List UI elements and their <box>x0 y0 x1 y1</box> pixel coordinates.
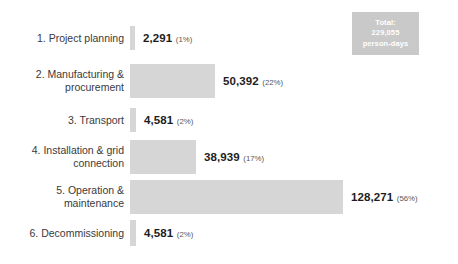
value-group: 128,271 (56%) <box>351 191 418 203</box>
value-number: 50,392 <box>223 75 259 87</box>
value-percent: (2%) <box>177 117 193 126</box>
category-label: 5. Operation & maintenance <box>0 184 130 210</box>
chart-row: 6. Decommissioning 4,581 (2%) <box>0 219 458 247</box>
category-label: 3. Transport <box>0 114 130 127</box>
bar <box>130 108 136 132</box>
value-group: 2,291 (1%) <box>143 32 192 44</box>
chart-row: 5. Operation & maintenance 128,271 (56%) <box>0 180 458 214</box>
value-group: 38,939 (17%) <box>204 151 264 163</box>
bar-zone: 128,271 (56%) <box>130 180 458 214</box>
value-percent: (22%) <box>262 78 283 87</box>
bar-zone: 50,392 (22%) <box>130 60 458 102</box>
value-number: 4,581 <box>144 227 173 239</box>
value-percent: (56%) <box>397 194 418 203</box>
bar-zone: 4,581 (2%) <box>130 219 458 247</box>
value-group: 4,581 (2%) <box>144 114 193 126</box>
category-label: 1. Project planning <box>0 32 130 45</box>
chart-row: 2. Manufacturing & procurement 50,392 (2… <box>0 60 458 102</box>
horizontal-bar-chart: Total: 229,055 person-days 1. Project pl… <box>0 0 458 264</box>
bar <box>130 220 136 246</box>
value-group: 4,581 (2%) <box>144 227 193 239</box>
value-percent: (17%) <box>243 154 264 163</box>
value-number: 128,271 <box>351 191 393 203</box>
category-label: 6. Decommissioning <box>0 227 130 240</box>
bar <box>130 180 343 214</box>
value-number: 38,939 <box>204 151 240 163</box>
value-group: 50,392 (22%) <box>223 75 283 87</box>
bar-zone: 2,291 (1%) <box>130 25 458 51</box>
chart-row: 3. Transport 4,581 (2%) <box>0 107 458 133</box>
chart-row: 4. Installation & grid connection 38,939… <box>0 136 458 178</box>
value-number: 2,291 <box>143 32 172 44</box>
value-percent: (2%) <box>177 230 193 239</box>
bar <box>130 64 215 98</box>
category-label: 2. Manufacturing & procurement <box>0 68 130 94</box>
category-label: 4. Installation & grid connection <box>0 144 130 170</box>
value-number: 4,581 <box>144 114 173 126</box>
value-percent: (1%) <box>176 35 192 44</box>
bar <box>130 26 135 50</box>
chart-row: 1. Project planning 2,291 (1%) <box>0 25 458 51</box>
bar-zone: 38,939 (17%) <box>130 136 458 178</box>
bar-zone: 4,581 (2%) <box>130 107 458 133</box>
bar <box>130 140 196 174</box>
